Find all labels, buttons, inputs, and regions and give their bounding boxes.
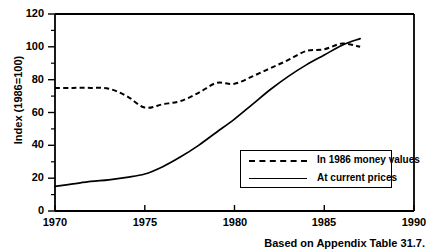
x-tick-label-1970: 1970 (32, 217, 78, 228)
legend-item-in-1986-money-values: In 1986 money values (241, 151, 393, 170)
y-axis-title: Index (1986=100) (12, 40, 24, 160)
chart-legend: In 1986 money values At current prices (240, 150, 392, 188)
legend-label-at-current-prices: At current prices (317, 172, 397, 183)
x-tick-label-1990: 1990 (391, 217, 431, 228)
series-line-in-1986-money-values (55, 44, 360, 108)
chart-plot-area (0, 0, 431, 252)
source-note: Based on Appendix Table 31.7. (264, 237, 425, 249)
chart-figure: 0 20 40 60 80 100 120 1970 1975 1980 198… (0, 0, 431, 252)
y-tick-label-0: 0 (8, 205, 44, 216)
y-tick-label-20: 20 (8, 172, 44, 183)
legend-label-in-1986-money-values: In 1986 money values (317, 154, 420, 165)
legend-item-at-current-prices: At current prices (241, 169, 393, 188)
x-tick-label-1985: 1985 (301, 217, 347, 228)
y-axis-ticks (48, 14, 55, 211)
legend-swatch-dashed-line (249, 160, 307, 164)
legend-swatch-solid-line (249, 178, 307, 181)
x-tick-label-1975: 1975 (122, 217, 168, 228)
y-tick-label-120: 120 (8, 8, 44, 19)
x-tick-label-1980: 1980 (212, 217, 258, 228)
